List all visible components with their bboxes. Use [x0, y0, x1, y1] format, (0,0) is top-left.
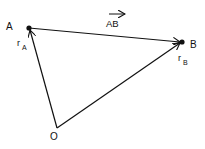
point-b-dot	[179, 39, 184, 44]
rb-label-sub: B	[183, 59, 188, 66]
rb-label-main: r	[178, 53, 181, 63]
vector-diagram: A B O r A r B AB	[0, 0, 205, 149]
point-o-label: O	[50, 131, 58, 142]
ra-label-sub: A	[22, 44, 27, 51]
point-b-label: B	[190, 39, 197, 50]
ab-label: AB	[106, 18, 119, 29]
point-a-dot	[26, 25, 31, 30]
point-a-label: A	[6, 21, 13, 32]
vector-ra-line	[30, 30, 57, 128]
vector-rb-line	[57, 43, 180, 128]
ra-label-main: r	[17, 38, 20, 48]
vector-ab-line	[29, 28, 180, 42]
